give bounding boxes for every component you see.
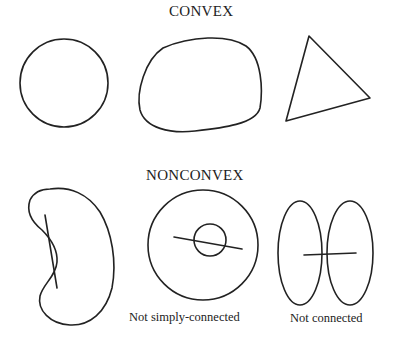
left-ellipse <box>278 201 322 305</box>
convex-shapes <box>20 36 370 132</box>
caption-not-simply-connected: Not simply-connected <box>129 311 240 324</box>
nonconvex-heading: NONCONVEX <box>146 168 244 183</box>
annulus-inner-hole <box>194 224 226 256</box>
caption-not-connected: Not connected <box>290 312 363 325</box>
convex-heading: CONVEX <box>169 4 233 19</box>
convex-triangle <box>286 36 370 121</box>
convex-circle <box>20 39 108 127</box>
ellipses-chord <box>304 253 356 255</box>
annulus-outer-circle <box>148 190 258 300</box>
convexity-diagram: CONVEX NONCONVEX Not simply-connected No… <box>0 0 400 338</box>
convex-rounded-blob <box>139 38 261 132</box>
kidney-shape <box>29 188 114 325</box>
nonconvex-shapes <box>29 188 373 325</box>
annulus-chord <box>174 237 242 249</box>
